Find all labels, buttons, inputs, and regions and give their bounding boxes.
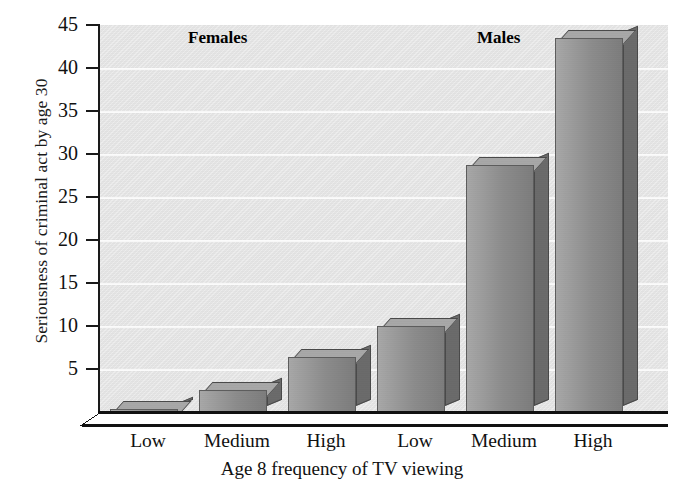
bar: [377, 326, 445, 412]
x-tick-label: High: [533, 430, 653, 452]
bar-front-face: [466, 165, 534, 412]
bar-chart-figure: Seriousness of criminal act by age 30 45…: [0, 0, 684, 485]
bar: [199, 390, 267, 412]
bar-front-face: [377, 326, 445, 412]
bar-front-face: [288, 357, 356, 412]
x-axis-title: Age 8 frequency of TV viewing: [0, 458, 684, 480]
floor-front-edge: [82, 424, 668, 427]
bar: [555, 38, 623, 412]
bar: [288, 357, 356, 412]
plot-area: [100, 25, 668, 412]
floor-left-edge: [80, 411, 102, 426]
y-tick-label: 45: [26, 14, 78, 34]
bar-side-face: [534, 153, 549, 406]
y-tick-label: 25: [26, 186, 78, 206]
y-tick-label: 20: [26, 229, 78, 249]
y-tick-label: 10: [26, 315, 78, 335]
y-tick-label: 40: [26, 57, 78, 77]
bar: [466, 165, 534, 412]
baseline: [98, 411, 668, 414]
bar-front-face: [555, 38, 623, 412]
bar-front-face: [199, 390, 267, 412]
y-tick-label: 30: [26, 143, 78, 163]
y-tick-label: 35: [26, 100, 78, 120]
y-tick-label: 15: [26, 272, 78, 292]
group-label-females: Females: [188, 28, 247, 48]
bar-side-face: [623, 26, 638, 406]
group-label-males: Males: [477, 28, 520, 48]
y-tick-label: 5: [26, 358, 78, 378]
